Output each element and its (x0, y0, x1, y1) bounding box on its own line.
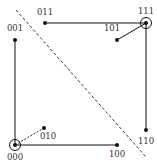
node-011 (43, 21, 47, 25)
node-001 (13, 38, 17, 42)
node-101 (115, 38, 119, 42)
hypercube-diagram: 000 001 010 011 100 101 110 111 (0, 0, 157, 166)
label-010: 010 (40, 131, 56, 141)
node-110 (144, 128, 148, 132)
label-001: 001 (7, 23, 23, 33)
label-100: 100 (109, 149, 125, 159)
node-010 (42, 126, 46, 130)
label-110: 110 (138, 136, 154, 146)
label-111: 111 (138, 6, 154, 16)
label-101: 101 (104, 23, 120, 33)
cut-line (16, 10, 146, 157)
node-100 (115, 143, 119, 147)
label-011: 011 (37, 7, 53, 17)
label-000: 000 (7, 152, 23, 162)
